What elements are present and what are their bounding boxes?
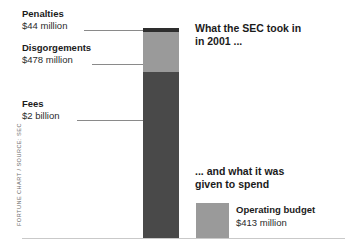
leader-line-disgorgements — [92, 64, 143, 65]
leader-line-penalties — [84, 30, 143, 31]
label-fees-value: $2 billion — [22, 110, 60, 122]
bar-segment-fees — [143, 72, 179, 238]
label-penalties-title: Penalties — [22, 8, 67, 20]
source-credit: FORTUNE CHART / SOURCE: SEC — [16, 116, 22, 226]
bar-segment-disgorgements — [143, 32, 179, 72]
callout-sec-spend-line2: given to spend — [195, 178, 284, 191]
label-operating-budget: Operating budget $413 million — [236, 203, 315, 229]
label-penalties-value: $44 million — [22, 20, 67, 32]
callout-sec-intake: What the SEC took in in 2001 ... — [195, 22, 301, 48]
baseline-rule — [22, 238, 345, 239]
callout-sec-intake-line2: in 2001 ... — [195, 35, 301, 48]
callout-sec-spend: ... and what it was given to spend — [195, 165, 284, 191]
label-operating-budget-value: $413 million — [236, 216, 315, 229]
label-fees-title: Fees — [22, 98, 60, 110]
sec-revenue-chart: FORTUNE CHART / SOURCE: SEC Penalties $4… — [0, 0, 345, 250]
label-fees: Fees $2 billion — [22, 98, 60, 122]
label-operating-budget-title: Operating budget — [236, 203, 315, 216]
label-penalties: Penalties $44 million — [22, 8, 67, 32]
bar-operating-budget — [196, 203, 229, 238]
callout-sec-intake-line1: What the SEC took in — [195, 22, 301, 35]
label-disgorgements: Disgorgements $478 million — [22, 42, 91, 66]
callout-sec-spend-line1: ... and what it was — [195, 165, 284, 178]
stacked-bar-sec-revenue — [143, 28, 179, 238]
label-disgorgements-value: $478 million — [22, 54, 91, 66]
leader-line-fees — [77, 120, 143, 121]
label-disgorgements-title: Disgorgements — [22, 42, 91, 54]
